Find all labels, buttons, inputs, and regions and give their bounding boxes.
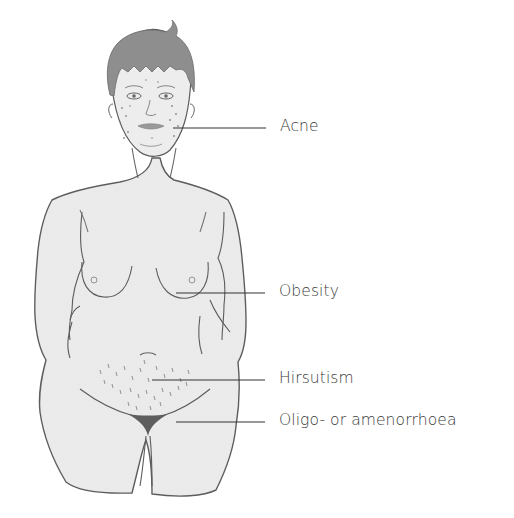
body-silhouette xyxy=(35,158,246,496)
label-oligo-amenorrhoea: Oligo- or amenorrhoea xyxy=(279,413,457,429)
label-obesity: Obesity xyxy=(279,284,339,300)
label-acne: Acne xyxy=(280,119,319,135)
head xyxy=(107,20,194,156)
label-hirsutism: Hirsutism xyxy=(279,371,354,387)
female-figure-illustration xyxy=(0,0,514,518)
